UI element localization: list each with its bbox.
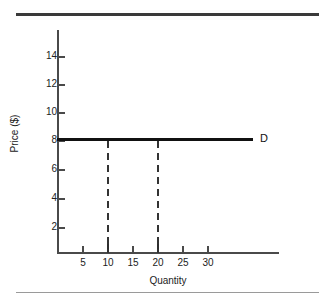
y-tick-label-8: 8 [31, 135, 57, 145]
y-axis-line [57, 30, 59, 254]
x-tick-label-20: 20 [145, 258, 171, 268]
y-tick-12 [59, 84, 65, 86]
x-tick-15 [132, 246, 134, 253]
y-tick-label-6: 6 [31, 164, 57, 174]
x-tick-label-15: 15 [120, 258, 146, 268]
demand-curve-line [57, 138, 253, 141]
page-rule-bottom-divider [16, 292, 319, 293]
x-tick-30 [207, 246, 209, 253]
x-tick-label-25: 25 [170, 258, 196, 268]
y-tick-14 [59, 56, 65, 58]
y-tick-2 [59, 227, 65, 229]
drop-line-q10 [107, 141, 109, 253]
y-tick-label-2: 2 [31, 222, 57, 232]
plot-area: 2 4 6 8 10 12 14 5 10 15 20 25 30 D [0, 0, 335, 306]
y-tick-label-12: 12 [31, 79, 57, 89]
drop-line-q20 [157, 141, 159, 253]
x-tick-5 [82, 246, 84, 253]
x-tick-label-10: 10 [95, 258, 121, 268]
demand-curve-label: D [260, 133, 268, 144]
x-axis-title: Quantity [57, 275, 279, 286]
x-axis-line [57, 252, 279, 254]
y-tick-4 [59, 198, 65, 200]
x-tick-label-5: 5 [70, 258, 96, 268]
x-tick-25 [182, 246, 184, 253]
y-axis-title: Price ($) [9, 94, 20, 174]
x-tick-label-30: 30 [195, 258, 221, 268]
y-tick-label-10: 10 [31, 107, 57, 117]
y-tick-10 [59, 112, 65, 114]
y-tick-6 [59, 169, 65, 171]
demand-curve-figure: 2 4 6 8 10 12 14 5 10 15 20 25 30 D [0, 0, 335, 306]
y-tick-label-14: 14 [31, 51, 57, 61]
y-tick-label-4: 4 [31, 193, 57, 203]
